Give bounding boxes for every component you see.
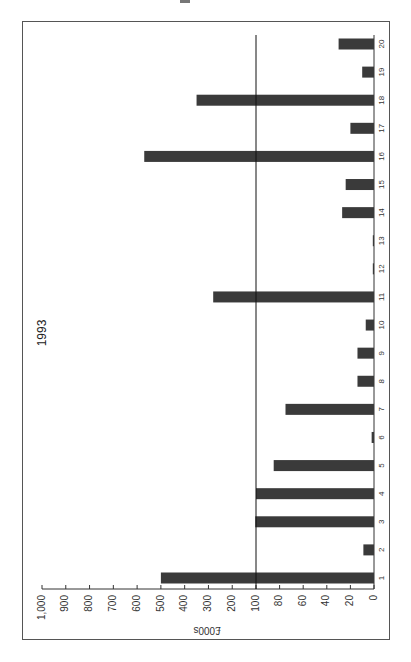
- bar: [350, 123, 374, 134]
- axis-tick-label: 400: [178, 595, 189, 612]
- category-label: 18: [377, 95, 386, 104]
- chart-title: 1993: [35, 319, 49, 346]
- axis-tick-label: 100: [250, 595, 261, 612]
- bar-chart: 0204060801002003004005006007008009001,00…: [0, 0, 411, 662]
- category-label: 14: [377, 208, 386, 217]
- axis-tick-label: 60: [297, 595, 308, 607]
- axis-tick-label: 1,000: [36, 595, 47, 620]
- axis-tick-label: 900: [59, 595, 70, 612]
- bar: [339, 39, 374, 50]
- bar: [255, 516, 374, 527]
- axis-tick-label: 20: [344, 595, 355, 607]
- bar: [213, 291, 374, 302]
- axis-tick-label: 0: [368, 595, 379, 601]
- category-label: 8: [377, 378, 386, 383]
- bar: [357, 376, 374, 387]
- category-label: 20: [377, 39, 386, 48]
- bar: [342, 207, 374, 218]
- axis-title: £000s: [193, 625, 220, 636]
- bar: [161, 573, 374, 584]
- axis-tick-label: 40: [320, 595, 331, 607]
- axis-tick-label: 300: [202, 595, 213, 612]
- category-label: 5: [377, 463, 386, 468]
- axis-tick-label: 200: [226, 595, 237, 612]
- category-label: 3: [377, 519, 386, 524]
- bar: [346, 179, 374, 190]
- category-label: 7: [377, 407, 386, 412]
- category-label: 4: [377, 491, 386, 496]
- category-label: 2: [377, 547, 386, 552]
- category-label: 9: [377, 350, 386, 355]
- axis-tick-label: 500: [155, 595, 166, 612]
- bar: [363, 544, 374, 555]
- bar: [286, 404, 375, 415]
- category-label: 16: [377, 151, 386, 160]
- axis-tick-label: 600: [131, 595, 142, 612]
- category-label: 11: [377, 292, 386, 301]
- bar: [373, 263, 374, 274]
- category-label: 19: [377, 67, 386, 76]
- category-label: 6: [377, 435, 386, 440]
- category-label: 13: [377, 236, 386, 245]
- category-label: 15: [377, 180, 386, 189]
- bar: [372, 432, 374, 443]
- category-label: 12: [377, 264, 386, 273]
- axis-tick-label: 700: [107, 595, 118, 612]
- category-label: 10: [377, 320, 386, 329]
- bar: [256, 488, 374, 499]
- bar: [366, 320, 374, 331]
- bar: [357, 348, 374, 359]
- bar: [274, 460, 374, 471]
- axis-tick-label: 80: [273, 595, 284, 607]
- bar: [197, 95, 374, 106]
- category-label: 17: [377, 123, 386, 132]
- bar: [144, 151, 374, 162]
- bar: [373, 235, 374, 246]
- axis-tick-label: 800: [83, 595, 94, 612]
- category-label: 1: [377, 575, 386, 580]
- bar: [362, 67, 374, 78]
